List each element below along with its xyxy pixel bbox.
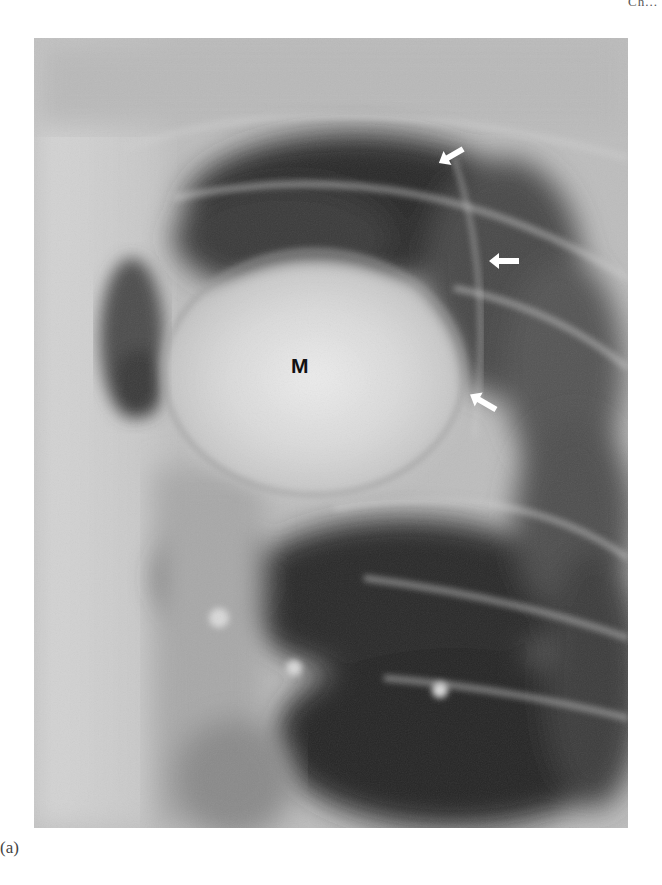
- arrow-icon-3: [466, 388, 500, 416]
- arrow-icon-2: [487, 252, 521, 270]
- mass-label: M: [291, 354, 309, 378]
- radiograph-figure: M: [34, 38, 628, 828]
- page-header-fragment: Ch...: [628, 0, 658, 10]
- arrow-icon-1: [435, 143, 467, 169]
- figure-caption: (a): [0, 838, 19, 858]
- xray-image: [34, 38, 628, 828]
